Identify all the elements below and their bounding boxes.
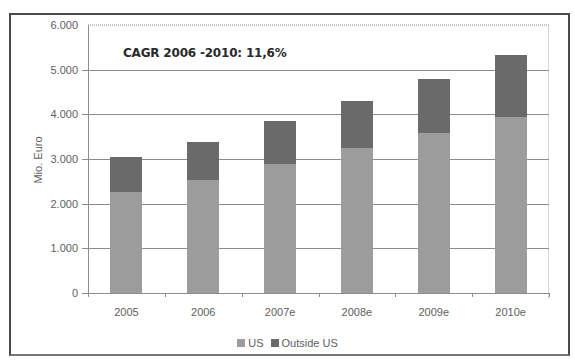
- legend-item-us: US: [237, 337, 263, 349]
- gridline: [82, 248, 549, 249]
- legend-label-outside-us: Outside US: [282, 337, 338, 349]
- x-tick-mark: [472, 293, 473, 297]
- bar-segment-us: [110, 192, 142, 293]
- bar-2005: [110, 157, 142, 293]
- x-tick-label: 2005: [114, 306, 138, 318]
- x-tick-label: 2008e: [342, 306, 373, 318]
- bar-segment-outside-us: [264, 121, 296, 164]
- bar-segment-outside-us: [418, 79, 450, 132]
- x-tick-mark: [242, 293, 243, 297]
- x-tick-mark: [319, 293, 320, 297]
- legend-label-us: US: [248, 337, 263, 349]
- y-tick-label: 2.000: [50, 198, 78, 210]
- bar-segment-us: [341, 148, 373, 293]
- x-tick-label: 2007e: [265, 306, 296, 318]
- bar-2008e: [341, 101, 373, 293]
- gridline: [82, 114, 549, 115]
- y-tick-label: 3.000: [50, 153, 78, 165]
- bar-segment-outside-us: [495, 55, 527, 117]
- x-tick-mark: [549, 293, 550, 297]
- y-axis-title: Mio. Euro: [32, 136, 44, 183]
- gridline: [82, 70, 549, 71]
- bar-2009e: [418, 79, 450, 293]
- bar-2007e: [264, 121, 296, 293]
- cagr-annotation: CAGR 2006 -2010: 11,6%: [123, 46, 287, 60]
- y-tick-label: 0: [72, 287, 78, 299]
- y-axis: [88, 25, 89, 295]
- bar-segment-outside-us: [187, 142, 219, 180]
- x-tick-label: 2006: [191, 306, 215, 318]
- x-tick-mark: [88, 293, 89, 297]
- gridline: [82, 159, 549, 160]
- legend-swatch-outside-us: [271, 339, 279, 347]
- x-tick-mark: [165, 293, 166, 297]
- x-tick-label: 2010e: [495, 306, 526, 318]
- x-axis: [82, 293, 549, 294]
- y-tick-label: 6.000: [50, 19, 78, 31]
- bar-segment-us: [495, 117, 527, 293]
- bar-segment-us: [264, 164, 296, 293]
- gridline: [88, 25, 549, 26]
- y-tick-label: 1.000: [50, 242, 78, 254]
- legend-item-outside-us: Outside US: [271, 337, 338, 349]
- bar-2006: [187, 142, 219, 293]
- x-tick-mark: [395, 293, 396, 297]
- legend-swatch-us: [237, 339, 245, 347]
- legend: US Outside US: [0, 337, 575, 349]
- plot-area: [88, 24, 549, 299]
- y-tick-label: 5.000: [50, 64, 78, 76]
- bar-2010e: [495, 55, 527, 293]
- bar-segment-us: [418, 133, 450, 293]
- y-tick-label: 4.000: [50, 108, 78, 120]
- x-tick-label: 2009e: [418, 306, 449, 318]
- bar-segment-outside-us: [110, 157, 142, 192]
- bar-segment-outside-us: [341, 101, 373, 148]
- bar-segment-us: [187, 180, 219, 293]
- gridline: [82, 204, 549, 205]
